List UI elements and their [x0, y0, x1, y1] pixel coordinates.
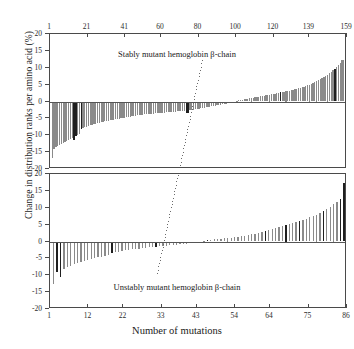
bar	[111, 242, 113, 254]
x-tick-label: 22	[119, 311, 127, 320]
x-tick	[49, 304, 50, 308]
reference-line-dot	[187, 129, 188, 130]
reference-line-dot	[177, 178, 178, 179]
bar	[343, 183, 345, 241]
reference-line-dot	[163, 247, 164, 248]
x-tick	[198, 33, 199, 37]
bar	[56, 242, 58, 273]
y-tick	[45, 50, 49, 51]
reference-line-dot	[174, 194, 175, 195]
reference-line-dot	[171, 207, 172, 208]
y-tick	[45, 207, 49, 208]
bar	[326, 209, 327, 242]
bar	[125, 242, 126, 251]
reference-line-dot	[201, 63, 202, 64]
reference-line-dot	[169, 217, 170, 218]
y-tick	[45, 151, 49, 152]
y-tick-label: 15	[19, 185, 42, 194]
y-tick-label: -20	[19, 304, 42, 313]
reference-line-dot	[189, 122, 190, 123]
y-tick	[45, 291, 49, 292]
reference-line-dot	[185, 142, 186, 143]
y-tick	[45, 134, 49, 135]
reference-line-dot	[172, 204, 173, 205]
x-tick-label: 33	[157, 311, 165, 320]
bar	[97, 242, 98, 258]
x-tick-label: 75	[304, 311, 312, 320]
bar	[275, 228, 276, 242]
reference-line-dot	[185, 139, 186, 140]
y-tick-label: 20	[19, 169, 42, 178]
bar	[115, 242, 116, 253]
bar	[101, 242, 102, 257]
reference-line-dot	[183, 152, 184, 153]
y-tick-label: 20	[19, 29, 42, 38]
x-tick	[346, 33, 347, 37]
x-tick-label: 1	[47, 22, 51, 31]
y-tick-label: -15	[19, 287, 42, 296]
plot-area-unstably	[50, 174, 345, 307]
reference-line-dot	[201, 67, 202, 68]
x-tick	[196, 304, 197, 308]
reference-line-dot	[183, 148, 184, 149]
x-tick	[49, 33, 50, 37]
bar	[278, 227, 279, 242]
bar	[74, 242, 75, 265]
plot-area-stably	[50, 34, 345, 167]
bar	[299, 221, 301, 242]
x-tick-label: 12	[84, 311, 92, 320]
x-tick-label: 159	[340, 22, 351, 31]
y-tick-label: 5	[19, 79, 42, 88]
y-tick	[45, 241, 49, 242]
reference-line-dot	[193, 103, 194, 104]
reference-line-dot	[160, 260, 161, 261]
y-tick-label: -5	[19, 113, 42, 122]
bar	[306, 219, 307, 242]
x-tick	[234, 304, 235, 308]
bar	[104, 242, 105, 257]
y-tick	[45, 101, 49, 102]
reference-line-dot	[195, 93, 196, 94]
y-tick-label: 0	[19, 236, 42, 245]
bar	[91, 242, 92, 259]
bar	[302, 220, 303, 242]
x-tick	[122, 304, 123, 308]
x-tick	[269, 304, 270, 308]
reference-line-dot	[196, 89, 197, 90]
reference-line-dot	[199, 76, 200, 77]
x-tick	[308, 33, 309, 37]
x-tick-label: 41	[120, 22, 128, 31]
reference-line-dot	[198, 80, 199, 81]
bar	[265, 231, 267, 242]
bar	[80, 242, 81, 262]
reference-line-dot	[161, 253, 162, 254]
x-tick-label: 43	[192, 311, 200, 320]
bar	[272, 229, 273, 242]
reference-line-dot	[200, 70, 201, 71]
reference-line-dot	[159, 263, 160, 264]
bar	[282, 226, 283, 242]
y-tick-label: -10	[19, 270, 42, 279]
y-tick-label: 10	[19, 62, 42, 71]
x-tick-label: 120	[267, 22, 278, 31]
reference-line-dot	[196, 86, 197, 87]
y-tick	[45, 84, 49, 85]
bar	[289, 224, 290, 242]
x-tick-label: 54	[230, 311, 238, 320]
reference-line-dot	[164, 240, 165, 241]
bar	[60, 242, 62, 278]
reference-line-dot	[190, 119, 191, 120]
y-tick	[45, 168, 49, 169]
reference-line-dot	[169, 214, 170, 215]
bar	[316, 215, 317, 242]
reference-line-dot	[158, 266, 159, 267]
bar	[254, 234, 255, 242]
x-tick-label: 86	[342, 311, 350, 320]
reference-line-dot	[190, 116, 191, 117]
reference-line-dot	[160, 257, 161, 258]
reference-line-dot	[178, 175, 179, 176]
bar	[138, 242, 139, 249]
x-tick	[87, 33, 88, 37]
bar	[309, 217, 310, 241]
reference-line-dot	[199, 73, 200, 74]
